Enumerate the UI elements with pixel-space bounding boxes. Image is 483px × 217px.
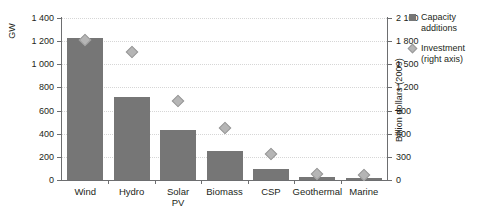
gridline: [62, 64, 387, 65]
y-axis-left-tick-label: 400: [14, 130, 54, 139]
x-axis-category-label: Solar PV: [167, 186, 189, 208]
y-axis-right-tick: [388, 180, 392, 181]
x-axis-category-label: Hydro: [119, 186, 144, 197]
bar: [67, 38, 103, 180]
bar: [160, 130, 196, 180]
y-axis-left-tick-label: 200: [14, 153, 54, 162]
y-axis-left-tick: [57, 180, 61, 181]
x-axis-tick: [155, 181, 156, 184]
y-axis-right-tick: [388, 41, 392, 42]
x-axis-tick: [341, 181, 342, 184]
y-axis-left-tick: [57, 134, 61, 135]
gridline: [62, 87, 387, 88]
y-axis-right-tick: [388, 134, 392, 135]
y-axis-left-tick: [57, 87, 61, 88]
x-axis-category-label: Geothermal: [293, 186, 343, 197]
y-axis-left-tick-label: 0: [14, 176, 54, 185]
y-axis-right-tick: [388, 111, 392, 112]
x-axis-tick: [108, 181, 109, 184]
x-axis-category-label: CSP: [261, 186, 281, 197]
y-axis-right-tick-label: 0: [396, 176, 436, 185]
y-axis-right-tick-label: 1 200: [396, 83, 436, 92]
gridline: [62, 18, 387, 19]
y-axis-left-tick-label: 800: [14, 83, 54, 92]
y-axis-right-tick-label: 900: [396, 107, 436, 116]
x-axis-spine: [62, 180, 388, 181]
bar: [253, 169, 289, 180]
legend-item[interactable]: Capacity additions: [409, 12, 483, 34]
x-axis-category-label: Wind: [74, 186, 96, 197]
y-axis-left-tick-label: 1 400: [14, 14, 54, 23]
y-axis-left-tick-label: 1 000: [14, 60, 54, 69]
y-axis-left-tick: [57, 111, 61, 112]
diamond-icon: [408, 44, 418, 54]
legend-item-label: Capacity additions: [421, 12, 483, 34]
bar: [207, 151, 243, 180]
square-icon: [409, 14, 416, 21]
plot-area: [62, 18, 387, 180]
x-axis-category-label: Marine: [349, 186, 378, 197]
y-axis-left-tick: [57, 41, 61, 42]
y-axis-left-tick-label: 600: [14, 107, 54, 116]
x-axis-tick: [248, 181, 249, 184]
chart-container: GW Billion dollars (2009) 02004006008001…: [0, 0, 483, 217]
y-axis-right-tick-label: 300: [396, 153, 436, 162]
legend-item[interactable]: Investment (right axis): [409, 43, 483, 65]
y-axis-right-tick: [388, 87, 392, 88]
y-axis-right-tick: [388, 18, 392, 19]
gridline: [62, 111, 387, 112]
y-axis-left-tick: [57, 64, 61, 65]
y-axis-right-tick: [388, 157, 392, 158]
x-axis-tick: [201, 181, 202, 184]
legend-item-label: Investment (right axis): [421, 43, 483, 65]
x-axis-tick: [294, 181, 295, 184]
x-axis-category-label: Biomass: [206, 186, 242, 197]
bar: [114, 97, 150, 180]
y-axis-right-tick: [388, 64, 392, 65]
chart-legend: Capacity additionsInvestment (right axis…: [409, 12, 483, 74]
y-axis-left-tick-label: 1 200: [14, 37, 54, 46]
y-axis-right-tick-label: 600: [396, 130, 436, 139]
y-axis-left-tick: [57, 157, 61, 158]
gridline: [62, 41, 387, 42]
y-axis-left-tick: [57, 18, 61, 19]
